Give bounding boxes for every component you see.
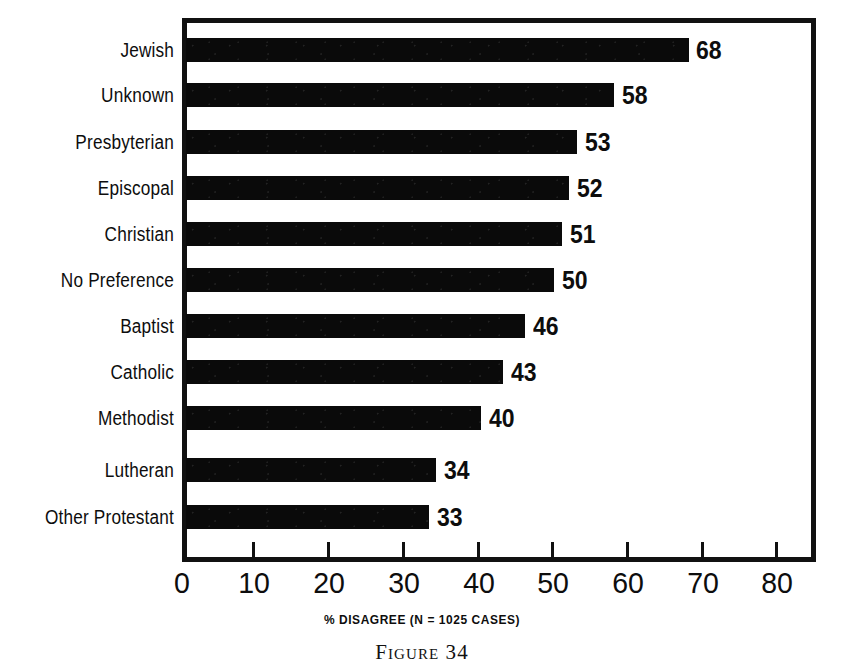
- value-label-catholic: 43: [511, 360, 537, 384]
- tick-mark-70: [701, 542, 704, 559]
- category-label-other-protestant: Other Protestant: [0, 505, 174, 529]
- category-label-lutheran: Lutheran: [0, 458, 174, 482]
- category-label-presbyterian: Presbyterian: [0, 130, 174, 154]
- bar-jewish: [186, 38, 689, 62]
- table-row: Baptist 46: [0, 314, 844, 338]
- bar-other-protestant: [186, 505, 429, 529]
- x-axis-title: % DISAGREE (N = 1025 CASES): [34, 612, 810, 627]
- bar-lutheran: [186, 458, 436, 482]
- tick-label-10: 10: [226, 567, 283, 599]
- bar-presbyterian: [186, 130, 577, 154]
- bar-no-preference: [186, 268, 554, 292]
- tick-mark-50: [551, 542, 554, 559]
- tick-label-80: 80: [749, 567, 806, 599]
- value-label-episcopal: 52: [577, 176, 603, 200]
- tick-mark-60: [626, 542, 629, 559]
- bar-baptist: [186, 314, 525, 338]
- tick-mark-10: [252, 542, 255, 559]
- tick-mark-80: [775, 542, 778, 559]
- tick-label-50: 50: [525, 567, 582, 599]
- bar-unknown: [186, 83, 614, 107]
- tick-label-0: 0: [154, 567, 211, 599]
- table-row: Lutheran 34: [0, 458, 844, 482]
- bar-catholic: [186, 360, 503, 384]
- table-row: Catholic 43: [0, 360, 844, 384]
- table-row: No Preference 50: [0, 268, 844, 292]
- bar-christian: [186, 222, 562, 246]
- tick-label-40: 40: [451, 567, 508, 599]
- category-label-catholic: Catholic: [0, 360, 174, 384]
- category-label-jewish: Jewish: [0, 38, 174, 62]
- tick-mark-40: [477, 542, 480, 559]
- bar-episcopal: [186, 176, 569, 200]
- category-label-no-preference: No Preference: [0, 268, 174, 292]
- value-label-no-preference: 50: [562, 268, 588, 292]
- value-label-methodist: 40: [489, 406, 515, 430]
- table-row: Episcopal 52: [0, 176, 844, 200]
- tick-mark-20: [327, 542, 330, 559]
- tick-label-20: 20: [301, 567, 358, 599]
- category-label-methodist: Methodist: [0, 406, 174, 430]
- figure-caption: Figure 34: [0, 640, 844, 665]
- tick-label-30: 30: [376, 567, 433, 599]
- value-label-baptist: 46: [533, 314, 559, 338]
- table-row: Presbyterian 53: [0, 130, 844, 154]
- bar-methodist: [186, 406, 481, 430]
- value-label-other-protestant: 33: [437, 505, 463, 529]
- value-label-lutheran: 34: [444, 458, 470, 482]
- category-label-christian: Christian: [0, 222, 174, 246]
- table-row: Unknown 58: [0, 83, 844, 107]
- table-row: Methodist 40: [0, 406, 844, 430]
- value-label-jewish: 68: [696, 38, 722, 62]
- category-label-episcopal: Episcopal: [0, 176, 174, 200]
- table-row: Christian 51: [0, 222, 844, 246]
- tick-label-60: 60: [600, 567, 657, 599]
- tick-mark-30: [402, 542, 405, 559]
- category-label-unknown: Unknown: [0, 83, 174, 107]
- value-label-unknown: 58: [622, 83, 648, 107]
- value-label-christian: 51: [570, 222, 596, 246]
- table-row: Jewish 68: [0, 38, 844, 62]
- tick-label-70: 70: [675, 567, 732, 599]
- figure-34: Jewish 68 Unknown 58 Presbyterian 53 Epi…: [0, 0, 844, 668]
- value-label-presbyterian: 53: [585, 130, 611, 154]
- table-row: Other Protestant 33: [0, 505, 844, 529]
- category-label-baptist: Baptist: [0, 314, 174, 338]
